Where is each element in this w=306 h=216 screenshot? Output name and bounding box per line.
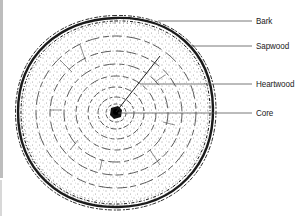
label-sapwood: Sapwood <box>256 40 289 51</box>
label-core: Core <box>256 107 273 118</box>
label-bark: Bark <box>256 15 272 26</box>
label-heartwood: Heartwood <box>256 78 294 89</box>
